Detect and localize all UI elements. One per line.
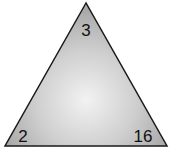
top-vertex-number: 3 <box>81 21 90 40</box>
bottom-left-vertex-number: 2 <box>18 127 27 146</box>
bottom-right-vertex-number: 16 <box>134 127 153 146</box>
triangle-diagram: 3 2 16 <box>0 0 173 150</box>
